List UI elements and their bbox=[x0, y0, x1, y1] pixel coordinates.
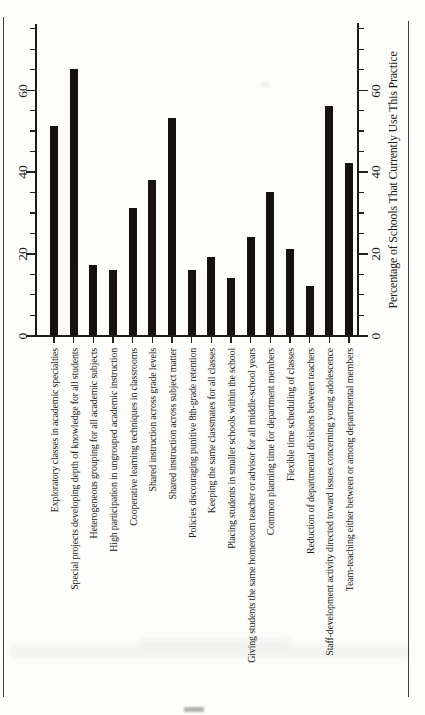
value-axis-title: Percentage of Schools That Currently Use… bbox=[386, 51, 401, 308]
category-label: Cooperative learning techniques in class… bbox=[128, 348, 139, 526]
category-label: Policies discouraging punitive 8th-grade… bbox=[187, 348, 198, 538]
scan-smudge bbox=[140, 638, 290, 646]
value-minor-tick-right bbox=[359, 49, 364, 50]
bar bbox=[325, 106, 333, 335]
figure-right-rule bbox=[408, 21, 409, 697]
value-minor-tick-right bbox=[359, 212, 364, 213]
value-minor-tick-right bbox=[359, 274, 364, 275]
bar bbox=[345, 163, 353, 335]
category-label: Common planning time for department memb… bbox=[265, 348, 276, 535]
category-label: Shared instruction across subject matter bbox=[167, 348, 178, 499]
category-label: Team-teaching either between or among de… bbox=[344, 348, 355, 591]
category-tick bbox=[171, 337, 172, 343]
bar bbox=[188, 270, 196, 335]
bar bbox=[266, 192, 274, 335]
category-label: Reduction of departmental divisions betw… bbox=[305, 348, 316, 554]
value-minor-tick-left bbox=[30, 212, 35, 213]
value-major-tick-right bbox=[359, 253, 368, 255]
category-tick bbox=[191, 337, 192, 343]
category-label: Staff-development activity directed towa… bbox=[324, 348, 335, 656]
scan-smudge bbox=[184, 707, 204, 712]
value-minor-tick-right bbox=[359, 130, 364, 131]
category-label: High participation in ungrouped academic… bbox=[108, 348, 119, 552]
category-label: Giving students the same homeroom teache… bbox=[246, 348, 257, 663]
bar bbox=[70, 69, 78, 335]
value-minor-tick-left bbox=[30, 151, 35, 152]
value-major-tick-right bbox=[359, 90, 368, 92]
category-tick bbox=[230, 337, 231, 343]
category-axis-baseline bbox=[35, 335, 359, 337]
bar bbox=[247, 237, 255, 335]
bar bbox=[306, 286, 314, 335]
bar bbox=[50, 126, 58, 335]
category-tick bbox=[112, 337, 113, 343]
category-label: Shared instruction across grade levels bbox=[147, 348, 158, 491]
value-major-tick-right bbox=[359, 335, 368, 337]
value-minor-tick-left bbox=[30, 192, 35, 193]
value-minor-tick-left bbox=[30, 110, 35, 111]
category-tick bbox=[211, 337, 212, 343]
category-label: Heterogeneous grouping for all academic … bbox=[88, 348, 99, 539]
value-minor-tick-right bbox=[359, 28, 364, 29]
value-axis-left bbox=[35, 24, 37, 337]
scan-smudge bbox=[10, 645, 410, 658]
category-tick bbox=[289, 337, 290, 343]
category-tick bbox=[329, 337, 330, 343]
category-label: Special projects developing depth of kno… bbox=[69, 348, 80, 590]
bar bbox=[89, 265, 97, 335]
bar bbox=[129, 208, 137, 335]
value-major-tick-right bbox=[359, 171, 368, 173]
value-minor-tick-left bbox=[30, 274, 35, 275]
category-tick bbox=[152, 337, 153, 343]
value-tick-label-right: 20 bbox=[368, 247, 384, 261]
figure-left-rule bbox=[3, 17, 4, 697]
value-minor-tick-left bbox=[30, 294, 35, 295]
value-minor-tick-right bbox=[359, 233, 364, 234]
value-minor-tick-left bbox=[30, 130, 35, 131]
value-tick-label-right: 40 bbox=[368, 166, 384, 180]
category-tick bbox=[270, 337, 271, 343]
value-minor-tick-right bbox=[359, 294, 364, 295]
category-tick bbox=[73, 337, 74, 343]
value-minor-tick-left bbox=[30, 28, 35, 29]
category-label: Placing students in smaller schools with… bbox=[226, 348, 237, 549]
value-minor-tick-right bbox=[359, 315, 364, 316]
value-tick-label-left: 0 bbox=[15, 333, 31, 340]
bar bbox=[227, 278, 235, 335]
category-label: Flexible time scheduling of classes bbox=[285, 348, 296, 481]
scan-smudge bbox=[260, 82, 270, 87]
value-minor-tick-right bbox=[359, 69, 364, 70]
value-minor-tick-left bbox=[30, 49, 35, 50]
value-minor-tick-left bbox=[30, 233, 35, 234]
bar bbox=[109, 270, 117, 335]
category-label: Keeping the same classmates for all clas… bbox=[206, 348, 217, 513]
bar bbox=[207, 257, 215, 335]
scanned-bar-chart-figure: 00202040406060Exploratory classes in aca… bbox=[0, 0, 425, 715]
value-minor-tick-right bbox=[359, 151, 364, 152]
value-minor-tick-left bbox=[30, 315, 35, 316]
category-tick bbox=[132, 337, 133, 343]
category-tick bbox=[309, 337, 310, 343]
category-tick bbox=[93, 337, 94, 343]
value-tick-label-left: 60 bbox=[15, 84, 31, 98]
category-label: Exploratory classes in academic specialt… bbox=[49, 348, 60, 512]
category-tick bbox=[250, 337, 251, 343]
category-tick bbox=[348, 337, 349, 343]
bar bbox=[286, 249, 294, 335]
value-minor-tick-left bbox=[30, 69, 35, 70]
value-tick-label-left: 40 bbox=[15, 166, 31, 180]
value-tick-label-right: 0 bbox=[368, 333, 384, 340]
value-tick-label-left: 20 bbox=[15, 247, 31, 261]
value-minor-tick-right bbox=[359, 192, 364, 193]
value-tick-label-right: 60 bbox=[368, 84, 384, 98]
category-tick bbox=[53, 337, 54, 343]
bar bbox=[168, 118, 176, 335]
value-minor-tick-right bbox=[359, 110, 364, 111]
bar bbox=[148, 180, 156, 335]
